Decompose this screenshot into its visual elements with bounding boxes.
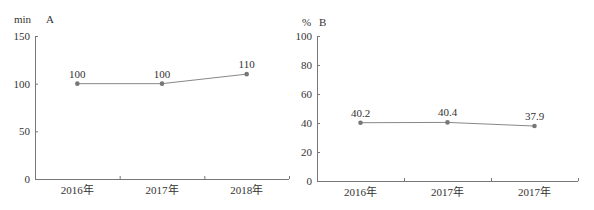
data-label: 100 xyxy=(69,68,86,80)
data-label: 40.2 xyxy=(351,107,370,119)
chart-a: minA0501001502016年2017年2018年100100110 xyxy=(14,13,290,196)
x-tick-label: 2016年 xyxy=(344,185,377,198)
chart-b: %B0204060801002016年2017年2017年40.240.437.… xyxy=(296,16,579,198)
y-unit-label: min xyxy=(14,13,32,25)
y-tick-label: 150 xyxy=(14,30,31,42)
data-point xyxy=(244,72,249,77)
data-label: 40.4 xyxy=(438,106,458,118)
y-tick-label: 100 xyxy=(296,30,313,42)
panel-label: A xyxy=(46,13,54,25)
data-label: 37.9 xyxy=(525,110,545,122)
y-tick-label: 80 xyxy=(301,59,313,71)
y-unit-label: % xyxy=(302,16,311,28)
x-tick-label: 2018年 xyxy=(230,183,263,196)
x-tick-label: 2017年 xyxy=(146,183,179,196)
data-point xyxy=(358,120,363,125)
data-point xyxy=(445,120,450,125)
y-tick-label: 60 xyxy=(301,88,313,100)
y-tick-label: 0 xyxy=(25,173,31,185)
data-point xyxy=(160,81,165,86)
x-tick-label: 2017年 xyxy=(431,185,464,198)
data-point xyxy=(75,81,80,86)
y-tick-label: 40 xyxy=(301,117,313,129)
y-tick-label: 0 xyxy=(307,175,313,187)
data-label: 110 xyxy=(239,58,256,70)
x-tick-label: 2017年 xyxy=(518,185,551,198)
y-tick-label: 100 xyxy=(14,78,31,90)
panel-label: B xyxy=(319,16,326,28)
data-point xyxy=(532,124,537,129)
data-label: 100 xyxy=(154,68,171,80)
y-tick-label: 20 xyxy=(301,146,313,158)
y-tick-label: 50 xyxy=(19,125,31,137)
x-tick-label: 2016年 xyxy=(61,183,94,196)
chart-canvas: minA0501001502016年2017年2018年100100110%B0… xyxy=(0,0,594,210)
